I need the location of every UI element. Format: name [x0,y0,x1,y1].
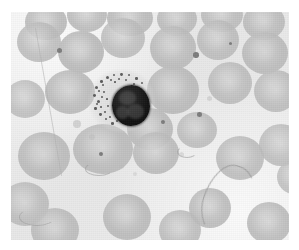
cytoplasmic-granule [106,76,109,79]
cytoplasmic-granule [120,73,123,76]
chromatin-clump [119,91,136,105]
stain-deposit [193,52,199,58]
platelet [73,120,81,128]
cytoplasmic-granule [135,77,138,80]
fibrin-strand [85,162,113,176]
red-blood-cell [103,194,151,240]
platelet [133,172,137,176]
fibrin-strand [19,208,55,226]
red-blood-cell [208,62,252,104]
red-blood-cell [247,202,289,240]
wbc-nucleus [112,85,150,126]
red-blood-cell [177,112,217,148]
red-blood-cell [133,132,179,174]
platelet [119,164,124,169]
red-blood-cell [58,31,104,73]
red-blood-cell [45,70,95,114]
stain-deposit [161,120,165,124]
cytoplasmic-granule [111,122,114,125]
cytoplasmic-granule [100,80,103,83]
stain-deposit [57,48,62,53]
white-blood-cell [89,70,155,132]
platelet [179,152,184,157]
cytoplasmic-granule [106,98,108,100]
red-blood-cell [197,20,239,60]
cytoplasmic-granule [107,105,109,107]
platelet [89,134,95,140]
red-blood-cell [242,32,288,74]
cytoplasmic-granule [118,78,120,80]
microscopy-field [11,12,289,240]
chromatin-clump [116,106,129,118]
cytoplasmic-granule [100,106,102,108]
platelet [207,96,212,101]
cytoplasmic-granule [114,81,116,83]
cytoplasmic-granule [101,96,103,98]
red-blood-cell [150,26,196,70]
cytoplasmic-granule [110,79,112,81]
screenshot-viewport: Peripheral blood smear photomicrograph [0,0,299,250]
cytoplasmic-granule [99,113,102,116]
cytoplasmic-granule [109,116,111,118]
red-blood-cell [101,18,145,58]
red-blood-cell [18,132,70,180]
stain-deposit [197,112,202,117]
cytoplasmic-granule [104,111,106,113]
stain-deposit [229,42,232,45]
chromatin-clump [127,104,144,119]
cytoplasmic-granule [94,107,97,110]
cytoplasmic-granule [96,103,98,105]
cytoplasmic-granule [98,90,100,92]
cytoplasmic-granule [93,94,96,97]
